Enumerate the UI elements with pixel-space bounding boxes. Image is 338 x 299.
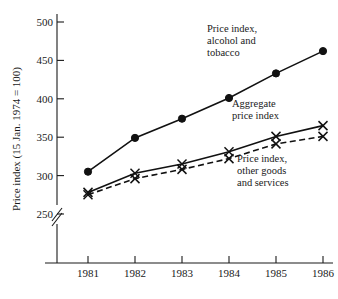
data-point [272,139,281,148]
x-tick-label-1985: 1985 [265,267,288,279]
y-axis-break-icon [52,208,62,226]
y-tick-marks [57,22,64,214]
annotation-line: alcohol and [207,35,256,46]
annotation-line: other goods [237,165,286,176]
y-tick-label-400: 400 [37,93,54,105]
price-index-chart: 500 450 400 350 300 250 Price index (15 … [0,0,338,299]
y-tick-label-450: 450 [37,54,54,66]
data-point [319,48,326,55]
y-tick-label-300: 300 [37,170,54,182]
chart-canvas: 500 450 400 350 300 250 Price index (15 … [0,0,338,299]
annotation-other-goods-services: Price index, other goods and services [237,153,289,188]
x-tick-label-1983: 1983 [171,267,194,279]
y-axis-title: Price index (15 Jan. 1974 = 100) [10,67,23,211]
data-point [178,115,185,122]
series-aggregate-price-index [84,121,328,197]
annotation-line: Aggregate [232,98,276,109]
series-other-goods-services [84,132,328,199]
x-tick-label-1982: 1982 [124,267,146,279]
annotation-line: price index [232,110,280,121]
annotation-line: tobacco [207,47,240,58]
data-point [131,134,138,141]
y-tick-label-350: 350 [37,131,54,143]
annotation-line: and services [237,177,289,188]
annotation-alcohol-tobacco: Price index, alcohol and tobacco [207,23,257,58]
series-alcohol-tobacco [84,48,326,176]
x-tick-label-1984: 1984 [218,267,241,279]
annotation-line: Price index, [207,23,257,34]
annotation-line: Price index, [237,153,287,164]
y-tick-label-500: 500 [37,16,54,28]
x-tick-label-1986: 1986 [312,267,335,279]
x-tick-marks [88,256,323,263]
x-tick-label-1981: 1981 [77,267,99,279]
data-point [84,168,91,175]
y-tick-label-250: 250 [37,208,54,220]
data-point [272,70,279,77]
annotation-aggregate-price-index: Aggregate price index [232,98,280,121]
